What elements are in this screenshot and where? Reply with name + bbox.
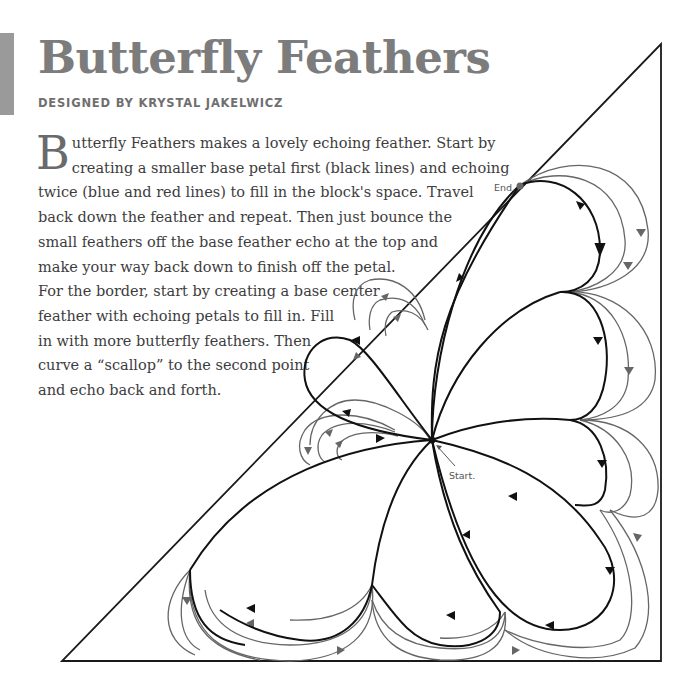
end-point-marker <box>517 183 524 190</box>
base-feather-lines <box>190 181 614 646</box>
triangle-frame <box>62 44 661 661</box>
start-point-marker <box>429 437 436 444</box>
butterfly-feather-diagram: End. Start. <box>0 0 695 687</box>
start-pointer-arrow <box>436 445 442 450</box>
start-label: Start. <box>449 470 475 481</box>
echo-lines <box>168 165 658 661</box>
end-label: End. <box>494 182 515 193</box>
